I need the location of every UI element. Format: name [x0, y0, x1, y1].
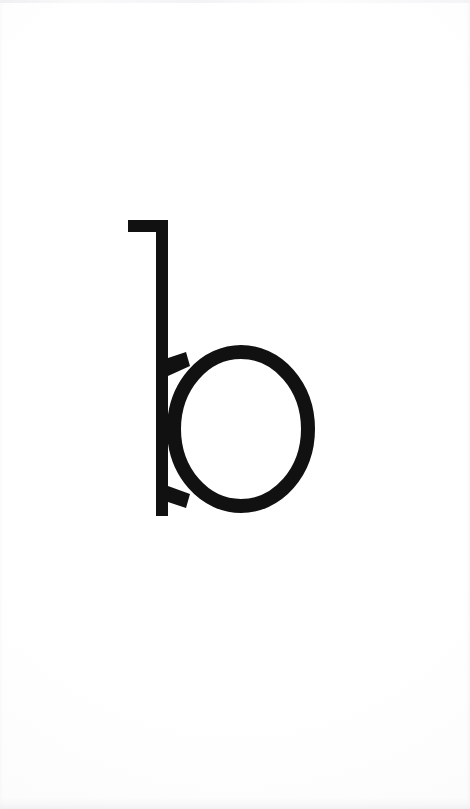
letter-b-stem — [156, 220, 168, 516]
letter-b-bowl — [174, 352, 308, 506]
glyph-layer — [0, 0, 470, 809]
letter-b-top-flag — [128, 220, 168, 232]
letter-b-glyph — [0, 0, 470, 809]
letter-specimen-page: b — [0, 0, 470, 809]
letter-b-bowl-stem-join-bottom — [168, 486, 190, 508]
